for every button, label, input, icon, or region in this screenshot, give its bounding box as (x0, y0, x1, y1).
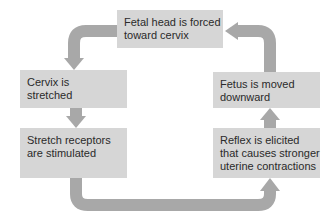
arrowhead-left-head-icon (225, 22, 238, 40)
arrowhead-down-receptors-icon (66, 116, 86, 128)
node-label-line: Cervix is (27, 76, 127, 89)
node-label-line: Stretch receptors (27, 134, 127, 147)
node-label-line: toward cervix (124, 29, 223, 42)
arrowhead-down-cervix-icon (64, 58, 84, 70)
arrowhead-up-fetus-icon (260, 108, 280, 120)
node-receptors: Stretch receptors are stimulated (20, 128, 127, 178)
node-label-line: are stimulated (27, 147, 127, 160)
node-label-line: uterine contractions (220, 160, 320, 173)
arrow-head-to-cervix (74, 31, 117, 58)
node-label-line: that causes stronger (220, 147, 320, 160)
arrow-receptors-to-reflex (76, 178, 270, 205)
node-label-line: Fetus is moved (220, 78, 320, 91)
arrow-fetus-to-head (238, 31, 270, 72)
node-reflex: Reflex is elicited that causes stronger … (213, 128, 320, 178)
node-fetal-head: Fetal head is forced toward cervix (117, 10, 223, 48)
arrowhead-up-reflex-icon (260, 178, 280, 191)
node-label-line: Fetal head is forced (124, 16, 223, 29)
node-label-line: stretched (27, 89, 127, 102)
node-cervix: Cervix is stretched (20, 70, 127, 108)
node-fetus: Fetus is moved downward (213, 72, 320, 108)
node-label-line: Reflex is elicited (220, 134, 320, 147)
node-label-line: downward (220, 91, 320, 104)
